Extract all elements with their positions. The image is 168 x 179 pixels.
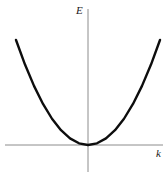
y-axis-label-energy: E	[76, 5, 83, 16]
dispersion-figure: E k	[0, 0, 168, 179]
plot-canvas	[0, 0, 168, 179]
x-axis-label-wavevector: k	[156, 148, 161, 159]
